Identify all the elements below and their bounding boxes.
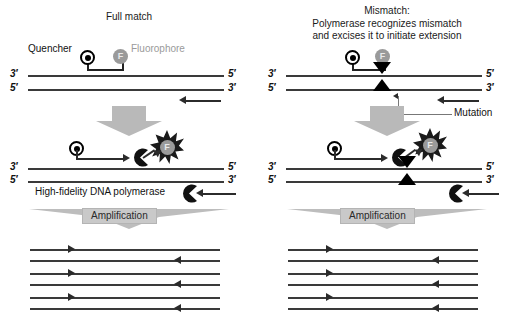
strand-label-top-right: 5′ xyxy=(228,68,235,79)
strand-label-top-right: 5′ xyxy=(486,68,493,79)
fluorophore-emitting-icon: F xyxy=(423,138,438,153)
extension-arrow xyxy=(76,158,123,160)
quencher-icon xyxy=(345,50,360,65)
panel-mismatch: Mismatch: Polymerase recognizes mismatch… xyxy=(258,0,516,322)
product-strand-top xyxy=(30,297,220,299)
panel-title-full-match: Full match xyxy=(0,11,258,24)
product-arrowhead-fwd xyxy=(68,245,75,253)
panel-title-line-3: and excises it to initiate extension xyxy=(258,30,516,43)
strand-label-top-left: 3′ xyxy=(268,68,275,79)
polymerase-pointer-arrowhead xyxy=(196,189,203,197)
strand2-label-bottom-left: 5′ xyxy=(268,174,275,185)
mismatch-triangle-lower xyxy=(398,173,416,185)
extension-elbow xyxy=(334,150,336,158)
product-strand-top xyxy=(30,273,220,275)
product-strand-top xyxy=(288,297,478,299)
product-strand-top xyxy=(288,273,478,275)
panel-title-line-2: Polymerase recognizes mismatch xyxy=(258,18,516,31)
dna-strand2-bottom xyxy=(286,181,482,183)
mismatch-triangle-lower xyxy=(373,79,391,91)
product-arrowhead-fwd xyxy=(68,269,75,277)
strand2-label-top-left: 3′ xyxy=(268,161,275,172)
strand2-label-top-right: 5′ xyxy=(486,161,493,172)
product-strand-bottom xyxy=(288,284,478,286)
product-arrowhead-rev xyxy=(174,256,181,264)
strand2-label-bottom-left: 5′ xyxy=(10,174,17,185)
dna-strand2-top xyxy=(286,168,482,170)
product-strand-bottom xyxy=(30,260,220,262)
panel-title-mismatch: Mismatch: Polymerase recognizes mismatch… xyxy=(258,5,516,43)
extension-elbow xyxy=(76,150,78,158)
strand2-label-top-left: 3′ xyxy=(10,161,17,172)
product-arrowhead-rev xyxy=(432,256,439,264)
dna-strand-top xyxy=(28,75,224,77)
quencher-icon xyxy=(80,50,95,65)
product-arrowhead-fwd xyxy=(326,245,333,253)
strand2-label-top-right: 5′ xyxy=(228,161,235,172)
product-arrowhead-fwd xyxy=(326,269,333,277)
reverse-primer-arrowhead xyxy=(437,96,444,104)
extension-arrow xyxy=(334,158,381,160)
fluorophore-icon: F xyxy=(113,49,128,64)
strand2-label-bottom-right: 3′ xyxy=(228,174,235,185)
strand-label-bottom-right: 3′ xyxy=(486,82,493,93)
fluorescence-burst: F xyxy=(413,128,447,162)
fluorescence-burst: F xyxy=(150,130,184,164)
mismatch-triangle-upper xyxy=(373,62,391,74)
product-arrowhead-rev xyxy=(174,304,181,312)
polymerase-pointer-arrow xyxy=(203,193,236,195)
quencher-label: Quencher xyxy=(28,43,72,54)
product-arrowhead-fwd xyxy=(326,293,333,301)
polymerase-pointer-arrowhead xyxy=(462,189,469,197)
panel-title-line-1: Mismatch: xyxy=(258,5,516,18)
mismatch-triangle-upper xyxy=(398,156,416,168)
product-strand-top xyxy=(30,249,220,251)
product-strand-bottom xyxy=(288,308,478,310)
mutation-label: Mutation xyxy=(454,107,492,118)
strand-label-bottom-left: 5′ xyxy=(268,82,275,93)
strand-label-bottom-left: 5′ xyxy=(10,82,17,93)
polymerase-pointer-arrow xyxy=(469,193,499,195)
amplification-label: Amplification xyxy=(82,208,157,224)
panel-full-match: Full match Quencher Fluorophore F 3′ 5′ … xyxy=(0,0,258,322)
mismatch-marker xyxy=(373,62,391,94)
strand-label-top-left: 3′ xyxy=(10,68,17,79)
fluorophore-label: Fluorophore xyxy=(131,43,185,54)
product-strand-top xyxy=(288,249,478,251)
reverse-primer-arrowhead xyxy=(179,96,186,104)
polymerase-label: High-fidelity DNA polymerase xyxy=(35,186,165,197)
product-strand-bottom xyxy=(30,284,220,286)
product-arrowhead-fwd xyxy=(68,293,75,301)
strand2-label-bottom-right: 3′ xyxy=(486,174,493,185)
product-arrowhead-rev xyxy=(432,304,439,312)
extension-arrowhead xyxy=(381,154,388,162)
reverse-primer-arrow xyxy=(444,100,479,102)
dna-strand2-top xyxy=(28,168,224,170)
product-arrowhead-rev xyxy=(174,280,181,288)
strand-label-bottom-right: 3′ xyxy=(228,82,235,93)
amplification-label: Amplification xyxy=(340,208,415,224)
extension-arrowhead xyxy=(123,154,130,162)
product-strand-bottom xyxy=(288,260,478,262)
product-arrowhead-rev xyxy=(432,280,439,288)
product-strand-bottom xyxy=(30,308,220,310)
reverse-primer-arrow xyxy=(186,100,221,102)
mismatch-marker xyxy=(398,156,416,188)
dna-strand2-bottom xyxy=(28,181,224,183)
mutation-leader-line-2 xyxy=(428,114,452,115)
dna-strand-bottom xyxy=(28,89,224,91)
